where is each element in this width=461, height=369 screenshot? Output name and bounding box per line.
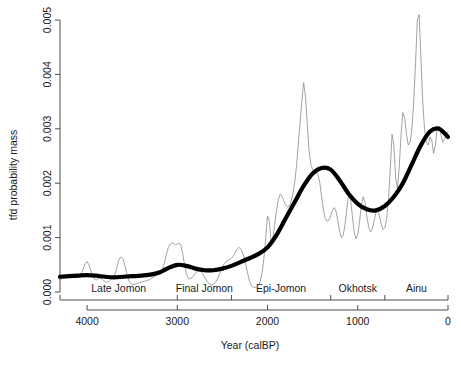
y-tick-label: 0.001 (41, 224, 53, 250)
y-axis-title: tfd probability mass (7, 130, 19, 220)
y-tick-label: 0.000 (41, 279, 53, 305)
period-label: Okhotsk (339, 282, 378, 294)
y-tick-label: 0.002 (41, 170, 53, 196)
y-tick-label: 0.004 (41, 61, 53, 87)
period-label: Late Jomon (91, 282, 146, 294)
x-tick-label: 0 (445, 315, 451, 327)
tfd-probability-mass-line-chart: 0.0000.0010.0020.0030.0040.005 400030002… (0, 0, 461, 369)
x-axis-title: Year (calBP) (221, 339, 280, 351)
chart-container: 0.0000.0010.0020.0030.0040.005 400030002… (0, 0, 461, 369)
x-tick-label: 4000 (75, 315, 99, 327)
x-tick-label: 2000 (256, 315, 280, 327)
x-tick-label: 3000 (166, 315, 190, 327)
chart-background (0, 0, 461, 369)
y-tick-label: 0.003 (41, 116, 53, 142)
period-label: Ainu (406, 282, 427, 294)
period-label: Epi-Jomon (256, 282, 306, 294)
period-label: Final Jomon (176, 282, 233, 294)
x-tick-label: 1000 (346, 315, 370, 327)
y-tick-label: 0.005 (41, 7, 53, 33)
